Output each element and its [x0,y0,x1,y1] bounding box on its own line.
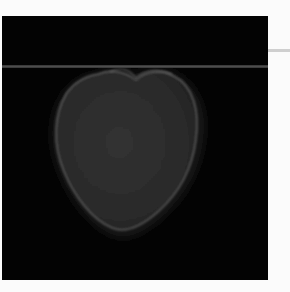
scan-image-panel [2,16,268,280]
heart-shaped-object [2,16,268,280]
image-canvas [0,0,290,292]
bleed-through-text [0,0,290,16]
horizontal-guide-line [2,65,268,68]
horizontal-guide-line-extension [268,49,290,52]
